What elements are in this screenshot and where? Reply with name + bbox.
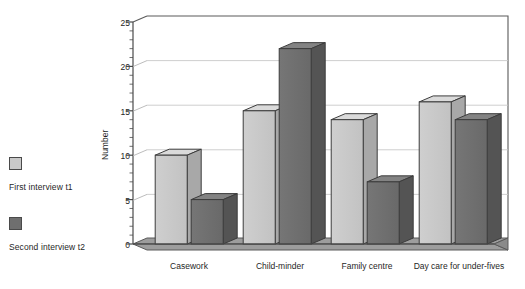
- bar-child-minder-second-interview: [279, 43, 325, 244]
- chart-grid-depth-connectors: [133, 61, 147, 201]
- bar-casework-second-interview: [191, 194, 237, 244]
- bar-day-care-second-interview: [455, 114, 501, 244]
- chart-figure: First interview t1 Second interview t2 N…: [0, 0, 525, 289]
- chart-plot-area: Number 25 20 15 10 5 0 Casework Child-mi…: [0, 0, 525, 289]
- bar-family-centre-second-interview: [367, 176, 413, 244]
- chart-canvas: [0, 0, 525, 289]
- y-axis-ticks: [126, 22, 133, 244]
